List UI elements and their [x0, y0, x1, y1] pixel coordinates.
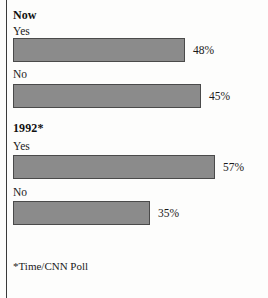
bar-1992-yes	[13, 155, 215, 179]
bar-value-now-yes: 48%	[193, 44, 214, 56]
left-vertical-rule	[6, 0, 7, 298]
group-title-now: Now	[13, 8, 37, 23]
bar-now-no	[13, 84, 201, 108]
poll-bar-chart: Now Yes 48% No 45% 1992* Yes 57% No 35% …	[0, 0, 268, 298]
group-title-1992: 1992*	[13, 121, 44, 136]
bar-value-1992-yes: 57%	[223, 161, 244, 173]
chart-footnote: *Time/CNN Poll	[13, 260, 88, 272]
category-label-1992-yes: Yes	[13, 140, 30, 152]
bar-value-1992-no: 35%	[158, 207, 179, 219]
category-label-now-yes: Yes	[13, 25, 30, 37]
category-label-1992-no: No	[13, 186, 27, 198]
bar-1992-no	[13, 201, 150, 225]
chart-plot-area: Now Yes 48% No 45% 1992* Yes 57% No 35% …	[13, 0, 268, 298]
bar-now-yes	[13, 38, 185, 62]
bar-value-now-no: 45%	[209, 90, 230, 102]
category-label-now-no: No	[13, 68, 27, 80]
